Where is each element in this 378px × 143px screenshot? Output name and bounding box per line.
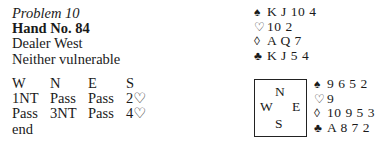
east-diamonds: ◊10 9 5 3 <box>314 106 375 121</box>
bid <box>126 122 164 137</box>
east-hand: ♠9 6 5 2 ♡9 ◊10 9 5 3 ♣A 8 7 2 <box>314 77 375 135</box>
bid: Pass <box>88 106 126 121</box>
north-diamonds: ◊A Q 7 <box>254 34 316 49</box>
header-south: S <box>126 76 164 91</box>
club-icon: ♣ <box>314 122 327 136</box>
north-hearts: ♡10 2 <box>254 20 316 35</box>
diamond-icon: ◊ <box>314 107 327 121</box>
bid <box>88 122 126 137</box>
problem-title: Problem 10 <box>12 6 120 21</box>
east-spades: ♠9 6 5 2 <box>314 77 375 92</box>
diamond-icon: ◊ <box>254 35 267 49</box>
dealer: Dealer West <box>12 36 120 51</box>
header-north: N <box>50 76 88 91</box>
east-clubs: ♣A 8 7 2 <box>314 121 375 136</box>
heart-icon: ♡ <box>314 93 327 107</box>
bid: 4♡ <box>126 106 164 121</box>
bid: 2♡ <box>126 91 164 106</box>
compass-south: S <box>275 116 283 132</box>
header-west: W <box>12 76 50 91</box>
north-spades: ♠K J 10 4 <box>254 5 316 20</box>
bid: Pass <box>88 91 126 106</box>
club-icon: ♣ <box>254 50 267 64</box>
auction-header: W N E S <box>12 76 164 91</box>
auction-row: 1NT Pass Pass 2♡ <box>12 91 164 106</box>
header-east: E <box>88 76 126 91</box>
heart-icon: ♡ <box>254 21 267 35</box>
deal-info: Problem 10 Hand No. 84 Dealer West Neith… <box>12 6 120 67</box>
bid: 3NT <box>50 106 88 121</box>
north-hand: ♠K J 10 4 ♡10 2 ◊A Q 7 ♣K J 5 4 <box>254 5 316 63</box>
bid: Pass <box>12 106 50 121</box>
compass-north: N <box>275 84 285 100</box>
auction-row: Pass 3NT Pass 4♡ <box>12 106 164 121</box>
bid: Pass <box>50 91 88 106</box>
spade-icon: ♠ <box>254 6 267 20</box>
bid <box>50 122 88 137</box>
bid: end <box>12 122 50 137</box>
auction-row: end <box>12 122 164 137</box>
spade-icon: ♠ <box>314 78 327 92</box>
east-hearts: ♡9 <box>314 92 375 107</box>
vulnerability: Neither vulnerable <box>12 52 120 67</box>
north-clubs: ♣K J 5 4 <box>254 49 316 64</box>
compass-box: N W E S <box>254 79 307 137</box>
auction-table: W N E S 1NT Pass Pass 2♡ Pass 3NT Pass 4… <box>12 76 164 137</box>
hand-number: Hand No. 84 <box>12 21 120 36</box>
compass-east: E <box>292 99 300 115</box>
bid: 1NT <box>12 91 50 106</box>
compass-west: W <box>260 99 273 115</box>
